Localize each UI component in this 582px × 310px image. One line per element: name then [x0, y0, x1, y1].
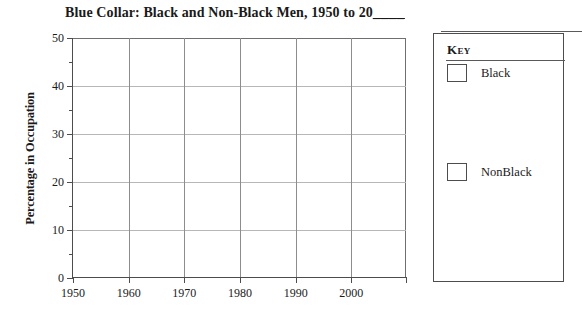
- y-tick-minor-5: [69, 254, 73, 255]
- y-tick-label-40: 40: [52, 79, 64, 94]
- x-tick-label-1950: 1950: [61, 286, 85, 301]
- gridline-x-1970: [184, 38, 185, 277]
- x-tick-label-1960: 1960: [117, 286, 141, 301]
- legend-label-black: Black: [481, 66, 510, 81]
- legend-item-nonblack: NonBlack: [447, 163, 532, 181]
- y-tick-50: [67, 38, 73, 39]
- x-tick-2000: [351, 277, 352, 283]
- legend-heading: Key: [447, 42, 471, 58]
- y-tick-20: [67, 182, 73, 183]
- x-tick-1950: [73, 277, 74, 283]
- y-tick-label-30: 30: [52, 127, 64, 142]
- x-tick-label-2000: 2000: [339, 286, 363, 301]
- plot-region: Percentage in Occupation 50 40 30 20 10 …: [0, 0, 420, 310]
- legend-swatch-black-icon: [447, 64, 467, 82]
- x-tick-1960: [129, 277, 130, 283]
- x-tick-label-1970: 1970: [172, 286, 196, 301]
- y-axis-title-text: Percentage in Occupation: [23, 92, 38, 224]
- gridline-x-1990: [296, 38, 297, 277]
- y-tick-label-20: 20: [52, 175, 64, 190]
- plot-area: 50 40 30 20 10 0 1950 1960 1970 1980 199…: [72, 38, 406, 278]
- legend-label-nonblack: NonBlack: [481, 165, 532, 180]
- y-tick-minor-45: [69, 62, 73, 63]
- y-tick-minor-35: [69, 110, 73, 111]
- y-tick-minor-25: [69, 158, 73, 159]
- x-tick-end: [406, 277, 407, 283]
- legend-item-black: Black: [447, 64, 510, 82]
- x-tick-label-1990: 1990: [284, 286, 308, 301]
- y-tick-minor-15: [69, 206, 73, 207]
- y-tick-10: [67, 230, 73, 231]
- x-tick-1970: [184, 277, 185, 283]
- y-tick-label-0: 0: [58, 271, 64, 286]
- legend-heading-rule: [446, 60, 565, 61]
- gridline-x-2000: [351, 38, 352, 277]
- key-top-rule: [441, 31, 582, 32]
- y-tick-40: [67, 86, 73, 87]
- x-tick-1990: [296, 277, 297, 283]
- plot-right-border: [405, 38, 406, 277]
- y-axis-title: Percentage in Occupation: [22, 38, 38, 278]
- y-tick-label-10: 10: [52, 223, 64, 238]
- y-tick-30: [67, 134, 73, 135]
- gridline-x-1960: [129, 38, 130, 277]
- x-tick-label-1980: 1980: [228, 286, 252, 301]
- y-tick-label-50: 50: [52, 31, 64, 46]
- legend-key-box: Key Black NonBlack: [433, 33, 564, 282]
- x-tick-1980: [240, 277, 241, 283]
- gridline-x-1980: [240, 38, 241, 277]
- legend-swatch-nonblack-icon: [447, 163, 467, 181]
